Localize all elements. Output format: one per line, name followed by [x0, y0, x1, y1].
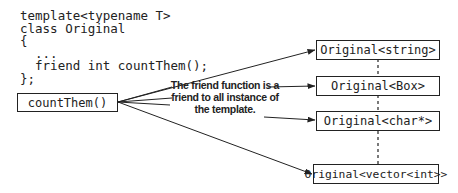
instance-label: Original<string> [320, 43, 436, 57]
annotation-line: The friend function is a [170, 79, 280, 91]
diagram-canvas: template<typename T>class Original{ ... … [0, 0, 458, 193]
instance-box-string: Original<string> [316, 40, 440, 60]
instance-label: Original<vector<int>> [305, 168, 448, 181]
template-code-block: template<typename T>class Original{ ... … [20, 10, 208, 85]
function-box-label: countThem() [28, 96, 107, 110]
code-line: class Original [20, 23, 208, 36]
arrow-to-char [264, 117, 315, 120]
instance-label: Original<Box> [331, 79, 425, 93]
annotation-line: the template. [170, 103, 280, 115]
instance-box-box: Original<Box> [316, 76, 440, 96]
friend-annotation: The friend function is a friend to all i… [170, 79, 280, 115]
annotation-line: friend to all instance of [170, 91, 280, 103]
code-line: friend int countThem(); [20, 60, 208, 73]
instance-label: Original<char*> [324, 114, 432, 128]
instance-box-vector-int: Original<vector<int>> [313, 164, 439, 184]
instance-box-char-ptr: Original<char*> [316, 111, 440, 131]
count-them-function-box: countThem() [17, 93, 118, 112]
